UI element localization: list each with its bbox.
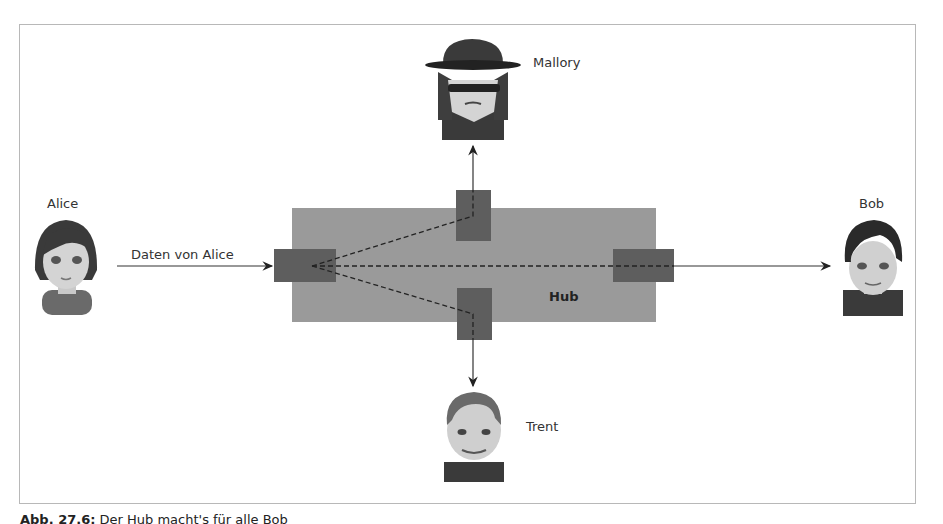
port-left — [274, 249, 336, 282]
trent-label: Trent — [526, 419, 558, 434]
caption-text: Der Hub macht's für alle Bob — [100, 512, 288, 524]
data-flow-label: Daten von Alice — [131, 247, 234, 262]
hub-diagram — [0, 0, 943, 524]
bob-label: Bob — [859, 196, 884, 211]
caption-prefix: Abb. 27.6: — [20, 512, 95, 524]
mallory-avatar-icon — [425, 39, 521, 140]
trent-avatar-icon — [444, 392, 504, 482]
bob-avatar-icon — [843, 220, 903, 316]
figure-caption: Abb. 27.6: Der Hub macht's für alle Bob — [20, 512, 288, 524]
alice-label: Alice — [47, 196, 78, 211]
port-bottom — [457, 288, 492, 340]
mallory-label: Mallory — [533, 55, 580, 70]
alice-avatar-icon — [35, 220, 97, 315]
hub-label: Hub — [549, 289, 578, 304]
